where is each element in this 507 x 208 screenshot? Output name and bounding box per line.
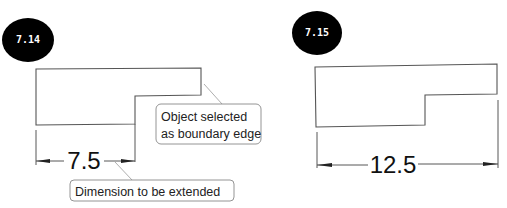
dimension-value: 12.5: [370, 151, 417, 178]
arrowhead-left: [317, 163, 332, 167]
figure-7-15: 7.15 12.5: [292, 11, 498, 178]
leader-line: [204, 84, 222, 104]
dimension-value: 7.5: [67, 147, 100, 174]
leader-line: [115, 162, 132, 180]
step-shape: [315, 64, 497, 127]
callout-text: Dimension to be extended: [75, 185, 220, 199]
arrowhead-right: [483, 162, 498, 166]
figure-number: 7.14: [16, 34, 40, 45]
callout-text-line2: as boundary edge: [161, 127, 261, 141]
figure-number: 7.15: [305, 27, 329, 38]
arrowhead-left: [36, 159, 50, 163]
arrowhead-right: [121, 159, 135, 163]
diagram-canvas: 7.14 7.5 Object selected as boundary edg…: [0, 0, 507, 208]
callout-text-line1: Object selected: [161, 110, 247, 124]
figure-7-14: 7.14 7.5 Object selected as boundary edg…: [2, 18, 261, 201]
